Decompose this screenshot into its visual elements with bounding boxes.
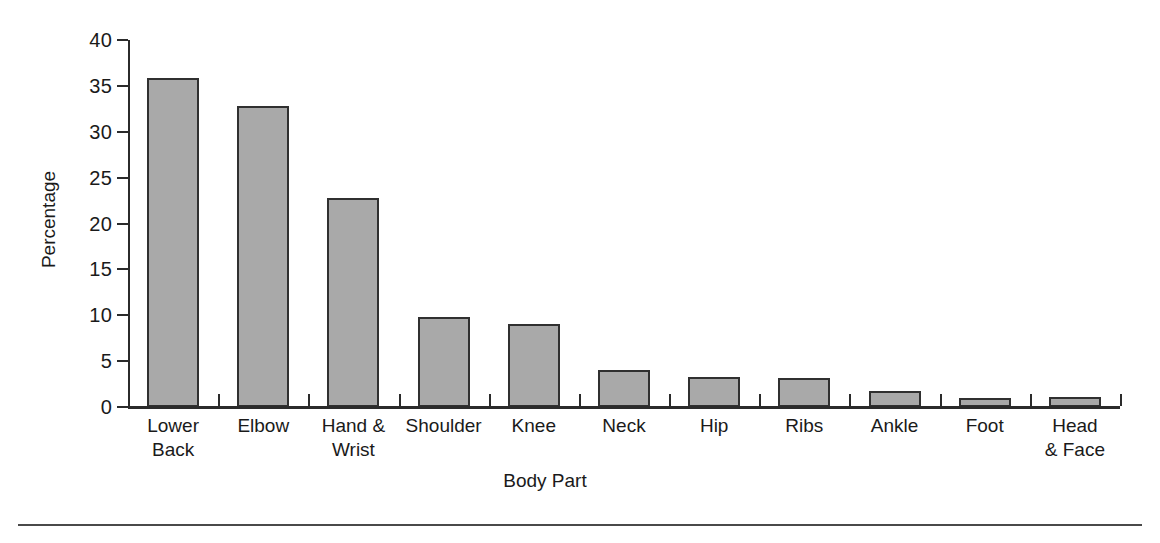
y-tick-mark [117, 177, 128, 179]
y-tick-label: 10 [72, 305, 112, 325]
x-axis-title: Body Part [0, 470, 1160, 492]
x-tick-mark [669, 394, 671, 406]
bar [508, 324, 560, 407]
y-tick-mark [117, 223, 128, 225]
y-tick-mark [117, 85, 128, 87]
x-category-label: Head & Face [1022, 414, 1128, 462]
y-tick-mark [117, 131, 128, 133]
x-tick-mark [489, 394, 491, 406]
x-tick-mark [399, 394, 401, 406]
x-tick-mark [128, 394, 130, 406]
y-tick-label: 20 [72, 214, 112, 234]
y-tick-label: 30 [72, 122, 112, 142]
plot-area [128, 40, 1120, 407]
y-tick-label: 15 [72, 259, 112, 279]
x-tick-mark [308, 394, 310, 406]
x-tick-mark [940, 394, 942, 406]
bar [327, 198, 379, 407]
x-tick-mark [849, 394, 851, 406]
bar [869, 391, 921, 407]
footer-divider [18, 524, 1142, 526]
y-tick-mark [117, 406, 128, 408]
x-tick-mark [759, 394, 761, 406]
bar [147, 78, 199, 407]
y-tick-label: 5 [72, 351, 112, 371]
y-tick-mark [117, 360, 128, 362]
y-axis-tick-labels: 0510152025303540 [62, 0, 112, 543]
bar-chart-figure: 0510152025303540 Percentage Lower BackEl… [0, 0, 1160, 543]
x-tick-mark [218, 394, 220, 406]
x-tick-mark [1030, 394, 1032, 406]
y-tick-mark [117, 39, 128, 41]
bar [237, 106, 289, 407]
y-tick-label: 0 [72, 397, 112, 417]
y-tick-label: 35 [72, 76, 112, 96]
bar [418, 317, 470, 407]
x-axis-line [128, 406, 1120, 409]
x-axis-title-text: Body Part [503, 470, 586, 492]
y-tick-mark [117, 268, 128, 270]
x-tick-mark [579, 394, 581, 406]
bar [688, 377, 740, 407]
y-tick-label: 25 [72, 168, 112, 188]
bar [598, 370, 650, 407]
x-tick-mark [1120, 394, 1122, 406]
y-axis-title: Percentage [39, 130, 58, 310]
y-tick-label: 40 [72, 30, 112, 50]
y-tick-mark [117, 314, 128, 316]
bar [778, 378, 830, 407]
